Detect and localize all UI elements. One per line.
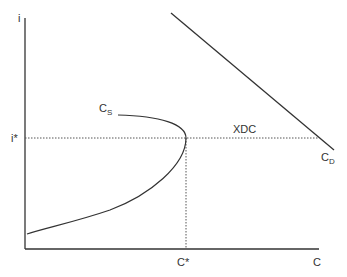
- demand-curve-label: CD: [321, 151, 335, 166]
- x-axis-label: C: [313, 256, 321, 268]
- y-axis-label: i: [18, 12, 20, 24]
- supply-curve: [27, 115, 186, 234]
- supply-curve-label: CS: [99, 102, 112, 117]
- excess-demand-label: XDC: [233, 123, 256, 135]
- c-star-label: C*: [177, 256, 190, 268]
- i-star-label: i*: [11, 132, 18, 144]
- diagram-canvas: i C i* C* CS CD XDC: [0, 0, 347, 277]
